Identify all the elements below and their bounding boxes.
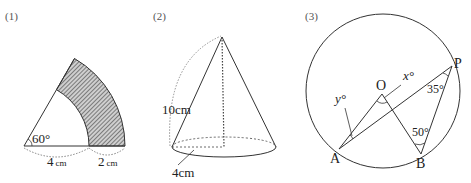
dim-4-label: 4cm [47,154,67,169]
point-O: O [376,78,386,93]
figure-2: (2) 10cm 4cm [153,10,276,180]
point-B: B [416,156,425,171]
slant-label: 10cm [162,102,191,117]
figure-2-label: (2) [153,10,166,23]
segment-BP [421,66,452,154]
cone-left-side [172,37,222,147]
angle-50-label: 50° [412,125,429,139]
x-leader [384,85,401,98]
dim-arc-2cm [89,148,125,155]
point-A: A [330,151,341,166]
figure-3-label: (3) [305,10,318,23]
diagram-canvas: (1) 60° 4cm 2cm (2) 10cm 4cm [0,0,471,183]
angle-60-label: 60° [32,131,50,146]
cone-right-side [222,37,276,147]
y-angle-label: y° [333,91,346,106]
angle-arc-P [443,73,448,76]
dim-2-label: 2cm [98,154,118,169]
radius-label: 4cm [172,165,194,180]
figure-3: (3) O A B P x° y° 35° 50° [305,10,462,171]
figure-1-label: (1) [5,10,18,23]
y-leader [345,108,352,136]
segment-AP [339,66,452,149]
angle-arc-O [377,101,387,103]
angle-35-label: 35° [427,82,444,96]
cone-height [222,37,224,147]
angle-arc-B [415,143,425,145]
figure-1: (1) 60° 4cm 2cm [5,10,125,169]
slant-dim-arc [170,36,221,146]
dim-arc-4cm [24,148,89,157]
x-angle-label: x° [402,68,414,83]
point-P: P [454,56,462,71]
